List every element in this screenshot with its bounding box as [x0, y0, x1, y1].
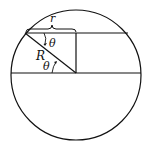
- label-r: r: [50, 12, 56, 25]
- circle-diagram: r θ R θ: [0, 0, 148, 148]
- angle-arc-top: [44, 33, 46, 44]
- label-theta-top: θ: [49, 37, 56, 50]
- label-theta-bottom: θ: [43, 60, 50, 73]
- angle-arc-bottom: [52, 62, 56, 73]
